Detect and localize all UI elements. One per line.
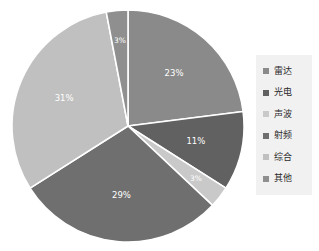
- legend-swatch-icon: [263, 68, 269, 74]
- legend-item[interactable]: 其他: [256, 172, 312, 186]
- legend-swatch-icon: [263, 90, 269, 96]
- pie-slice-label: 3%: [114, 36, 126, 45]
- legend-item-label: 光电: [274, 88, 292, 97]
- legend-item[interactable]: 综合: [256, 150, 312, 164]
- legend-swatch-icon: [263, 154, 269, 160]
- pie-chart-figure: 23%11%3%29%31%3% 雷达光电声波射频综合其他: [0, 0, 319, 251]
- pie-slice-label: 11%: [186, 136, 205, 146]
- pie-slice-label: 31%: [55, 93, 74, 103]
- pie-chart-svg: 23%11%3%29%31%3%: [8, 6, 248, 246]
- legend-swatch-icon: [263, 111, 269, 117]
- legend-item-label: 射频: [274, 131, 292, 140]
- legend-item-label: 雷达: [274, 67, 292, 76]
- pie-slice-group: [12, 10, 244, 242]
- legend-swatch-icon: [263, 133, 269, 139]
- legend-item-label: 综合: [274, 153, 292, 162]
- pie-slice-label: 23%: [165, 68, 184, 78]
- legend-item-label: 声波: [274, 110, 292, 119]
- legend-swatch-icon: [263, 176, 269, 182]
- chart-legend: 雷达光电声波射频综合其他: [256, 55, 312, 195]
- pie-slice-label: 3%: [190, 174, 202, 183]
- pie-slice[interactable]: [128, 10, 243, 126]
- legend-item[interactable]: 射频: [256, 129, 312, 143]
- legend-item[interactable]: 雷达: [256, 64, 312, 78]
- legend-item-label: 其他: [274, 174, 292, 183]
- legend-item[interactable]: 光电: [256, 86, 312, 100]
- pie-slice-label: 29%: [112, 190, 131, 200]
- legend-item[interactable]: 声波: [256, 107, 312, 121]
- pie-chart-plot-area: 23%11%3%29%31%3%: [8, 6, 248, 246]
